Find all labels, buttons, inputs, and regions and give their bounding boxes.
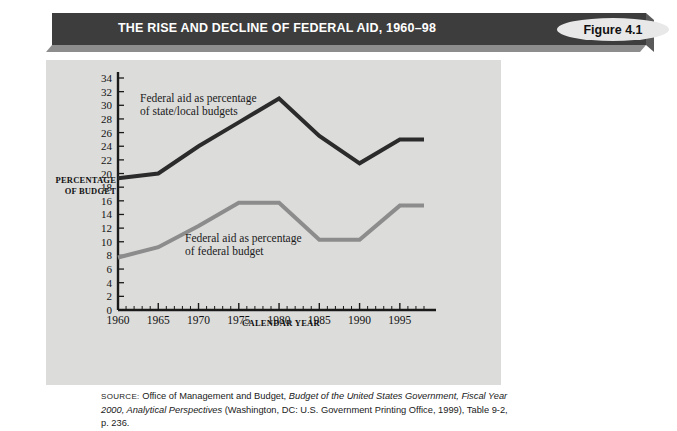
y-axis-title-line1: PERCENTAGE: [44, 175, 116, 186]
x-axis-title: CALENDAR YEAR: [191, 318, 371, 328]
y-tick-label: 10: [90, 236, 112, 248]
chart-panel: 0246810121416182022242628303234 19601965…: [46, 60, 501, 385]
series-annotation-federal: Federal aid as percentage of federal bud…: [185, 232, 302, 258]
y-tick-label: 32: [90, 86, 112, 98]
annotation-lower-line2: of federal budget: [185, 245, 302, 258]
banner-face: THE RISE AND DECLINE OF FEDERAL AID, 196…: [52, 13, 646, 45]
y-axis-title: PERCENTAGE OF BUDGET: [44, 175, 116, 197]
figure-number-label: Figure 4.1: [583, 23, 642, 37]
y-tick-label: 14: [90, 208, 112, 220]
annotation-upper-line1: Federal aid as percentage: [140, 92, 257, 105]
y-tick-label: 26: [90, 127, 112, 139]
annotation-upper-line2: of state/local budgets: [140, 105, 257, 118]
y-tick-label: 34: [90, 72, 112, 84]
line-chart-svg: [46, 60, 501, 385]
annotation-lower-line1: Federal aid as percentage: [185, 232, 302, 245]
y-tick-label: 6: [90, 263, 112, 275]
figure-banner: THE RISE AND DECLINE OF FEDERAL AID, 196…: [46, 13, 654, 53]
banner-bottom-bevel: [46, 45, 646, 52]
chart-plot-area: 0246810121416182022242628303234 19601965…: [46, 60, 501, 385]
y-tick-label: 8: [90, 249, 112, 261]
source-note-prefix: SOURCE:: [101, 392, 140, 401]
y-tick-label: 4: [90, 277, 112, 289]
source-note-text-1: Office of Management and Budget,: [140, 391, 289, 401]
source-note: SOURCE: Office of Management and Budget,…: [101, 390, 511, 431]
figure-number-badge: Figure 4.1: [557, 18, 669, 41]
x-tick-label: 1995: [380, 314, 420, 326]
series-annotation-state-local: Federal aid as percentage of state/local…: [140, 92, 257, 118]
y-tick-label: 22: [90, 154, 112, 166]
y-tick-label: 28: [90, 113, 112, 125]
x-tick-label: 1960: [98, 314, 138, 326]
page-title: THE RISE AND DECLINE OF FEDERAL AID, 196…: [118, 21, 436, 35]
y-tick-label: 2: [90, 290, 112, 302]
x-tick-label: 1965: [138, 314, 178, 326]
y-tick-label: 30: [90, 99, 112, 111]
y-tick-label: 24: [90, 140, 112, 152]
y-axis-title-line2: OF BUDGET: [44, 186, 116, 197]
y-tick-label: 12: [90, 222, 112, 234]
